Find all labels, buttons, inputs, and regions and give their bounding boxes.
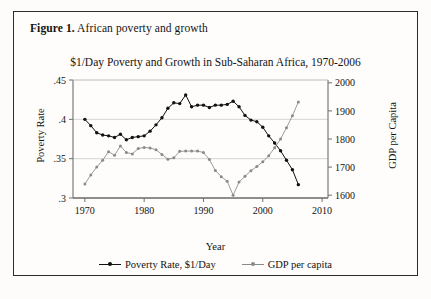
svg-text:1980: 1980 [134,205,154,216]
legend-item-poverty-rate: Poverty Rate, $1/Day [99,259,216,270]
svg-text:.4: .4 [59,114,67,125]
svg-text:1600: 1600 [335,190,355,201]
svg-text:1900: 1900 [335,106,355,117]
line-chart: .3.35.4.45160017001800190020001970198019… [14,74,419,234]
chart-plot-area: .3.35.4.45160017001800190020001970198019… [14,74,419,234]
svg-text:1800: 1800 [335,134,355,145]
svg-text:.35: .35 [54,153,67,164]
svg-text:.3: .3 [59,193,67,204]
svg-text:1970: 1970 [75,205,95,216]
figure-caption-text: African poverty and growth [75,22,208,34]
chart-title: $1/Day Poverty and Growth in Sub-Saharan… [14,56,417,68]
figure-caption: Figure 1. African poverty and growth [30,22,208,34]
svg-text:2010: 2010 [312,205,332,216]
y-axis-label-right: GDP per Capita [387,86,398,186]
legend-marker-icon [242,260,264,269]
svg-text:1990: 1990 [193,205,213,216]
svg-text:2000: 2000 [335,77,355,88]
y-axis-label-left: Poverty Rate [35,86,46,186]
svg-text:2000: 2000 [253,205,273,216]
legend-item-gdp-per-capita: GDP per capita [242,259,332,270]
svg-text:1700: 1700 [335,162,355,173]
legend-label: Poverty Rate, $1/Day [125,259,216,270]
legend-label: GDP per capita [268,259,332,270]
svg-text:.45: .45 [54,75,67,86]
figure-frame: Figure 1. African poverty and growth $1/… [13,11,418,276]
figure-caption-label: Figure 1. [30,22,75,34]
x-axis-label: Year [14,241,417,252]
chart-legend: Poverty Rate, $1/Day GDP per capita [14,259,417,270]
legend-marker-icon [99,260,121,269]
